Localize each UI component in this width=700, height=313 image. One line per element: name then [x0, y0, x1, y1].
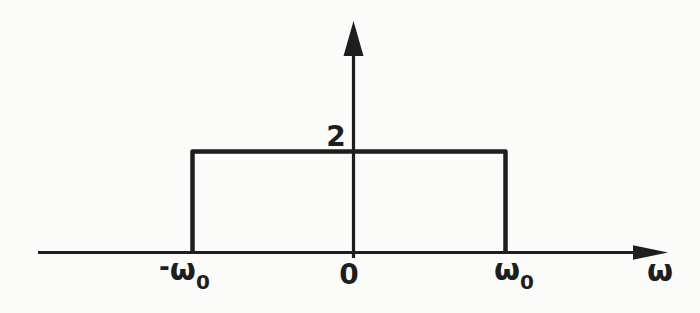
amplitude-tick-label: 2 [325, 123, 347, 151]
up-arrowhead-icon [344, 21, 364, 56]
subscript-zero: 0 [520, 270, 534, 294]
rect-spectrum-figure: 2 -ω0 0 ω0 ω [0, 0, 700, 313]
minus-sign: - [159, 252, 170, 282]
omega-symbol: ω [494, 252, 520, 287]
pos-cutoff-label: ω0 [494, 255, 534, 288]
x-axis-label: ω [647, 256, 673, 286]
rect-pulse-outline [193, 152, 506, 255]
subscript-zero: 0 [196, 270, 210, 294]
origin-tick-label: 0 [338, 261, 360, 289]
omega-symbol: ω [170, 252, 196, 287]
neg-cutoff-label: -ω0 [159, 255, 210, 288]
